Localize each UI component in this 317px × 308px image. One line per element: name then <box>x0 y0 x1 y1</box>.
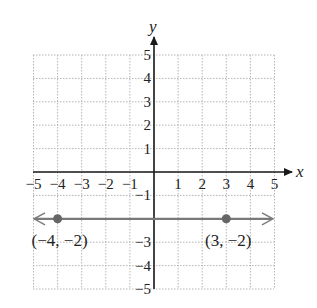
x-tick-label: 2 <box>198 176 206 192</box>
x-tick-label: −4 <box>50 176 66 192</box>
data-point <box>222 214 231 223</box>
y-axis-label: y <box>147 17 157 36</box>
point-label: (−4, −2) <box>32 231 88 250</box>
x-tick-label: 1 <box>174 176 182 192</box>
x-tick-label: 5 <box>271 176 279 192</box>
y-tick-label: −5 <box>135 281 151 297</box>
x-tick-label: −3 <box>74 176 90 192</box>
x-tick-label: 3 <box>223 176 231 192</box>
y-tick-label: 5 <box>144 47 152 63</box>
coordinate-plane: −5−4−3−2−11234554321−1−3−4−5 (−4, −2)(3,… <box>0 0 317 308</box>
x-tick-label: −2 <box>98 176 114 192</box>
y-tick-label: 1 <box>144 141 152 157</box>
data-point <box>53 214 62 223</box>
y-tick-label: −1 <box>135 187 151 203</box>
point-label: (3, −2) <box>205 231 251 250</box>
x-axis-label: x <box>295 162 304 181</box>
y-tick-label: 2 <box>144 117 152 133</box>
data-series: (−4, −2)(3, −2) <box>32 213 273 250</box>
y-tick-label: −3 <box>135 234 151 250</box>
y-tick-label: 4 <box>144 70 152 86</box>
y-tick-label: 3 <box>144 94 152 110</box>
x-tick-label: 4 <box>247 176 255 192</box>
axes <box>33 37 292 289</box>
x-tick-label: −5 <box>26 176 42 192</box>
y-tick-label: −4 <box>135 258 151 274</box>
